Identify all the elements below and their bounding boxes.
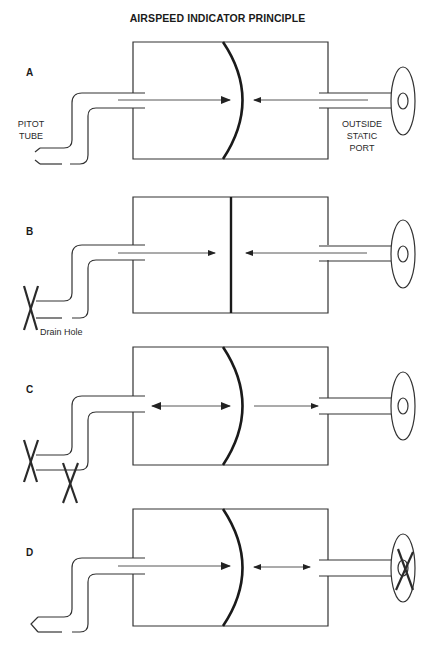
static-port-c bbox=[391, 372, 415, 440]
static-line-d bbox=[319, 534, 415, 602]
diaphragm-a bbox=[223, 42, 243, 159]
static-port-b bbox=[391, 220, 415, 288]
static-port-a bbox=[391, 67, 415, 135]
pitot-tube-b bbox=[36, 245, 145, 318]
panel-b bbox=[24, 197, 415, 330]
pitot-tube-d bbox=[31, 558, 145, 632]
pitot-tube-a bbox=[35, 93, 145, 164]
drain-hole-blocked-c bbox=[63, 463, 78, 503]
pitot-inlet-blocked-b bbox=[24, 286, 38, 330]
panel-a bbox=[35, 42, 415, 164]
instrument-case-a bbox=[133, 42, 328, 159]
panel-c bbox=[24, 347, 415, 503]
pitot-tube-c bbox=[36, 396, 145, 470]
pitot-inlet-blocked-c bbox=[24, 440, 38, 482]
static-line-a bbox=[319, 67, 415, 135]
static-port-d bbox=[391, 534, 415, 602]
static-line-c bbox=[319, 372, 415, 440]
instrument-case-d bbox=[133, 509, 328, 626]
diaphragm-d bbox=[223, 509, 243, 626]
static-line-b bbox=[319, 220, 415, 288]
panel-d bbox=[31, 509, 415, 632]
airspeed-diagram bbox=[0, 0, 435, 646]
